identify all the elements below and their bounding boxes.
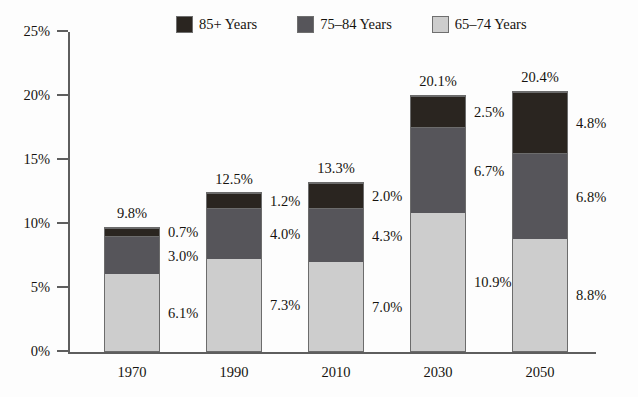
y-axis-tick: 20% [57,94,68,96]
bar-total-label: 20.1% [419,74,456,89]
legend-item-label: 65–74 Years [455,17,527,32]
segment-value-label: 4.8% [576,116,606,131]
bar-segment[interactable]: 4.0% [207,208,261,259]
y-axis-tick: 0% [57,350,68,352]
bar-segment[interactable]: 2.0% [309,183,363,208]
segment-value-label: 7.0% [372,299,402,314]
x-axis-tick-label: 1970 [118,365,147,380]
bar-segment[interactable]: 6.7% [411,127,465,212]
bar-segment[interactable]: 7.0% [309,262,363,351]
y-axis-tick-label: 25% [23,24,50,39]
bar-segment[interactable]: 2.5% [411,96,465,128]
bar-segment[interactable]: 3.0% [105,236,159,274]
segment-value-label: 6.1% [168,305,198,320]
segment-value-label: 0.7% [168,225,198,240]
legend-item-label: 85+ Years [199,17,257,32]
y-axis-tick: 10% [57,222,68,224]
x-axis-tick-label: 1990 [220,365,249,380]
bar-total-label: 13.3% [317,161,354,176]
y-axis-tick: 25% [57,30,68,32]
legend-item[interactable]: 65–74 Years [432,16,527,33]
x-axis-tick-label: 2050 [526,365,555,380]
bar-total-label: 12.5% [215,172,252,187]
segment-value-label: 8.8% [576,288,606,303]
legend-item-label: 75–84 Years [320,17,392,32]
stacked-bar[interactable]: 7.3%4.0%1.2% [206,192,262,352]
bar-group[interactable]: 8.8%6.8%4.8%20.4%2050 [512,32,568,352]
segment-value-label: 7.3% [270,298,300,313]
bar-segment[interactable]: 1.2% [207,193,261,208]
y-axis-tick-label: 0% [31,344,50,359]
bar-segment[interactable]: 7.3% [207,259,261,351]
legend-item[interactable]: 85+ Years [176,16,257,33]
x-axis-tick-label: 2030 [424,365,453,380]
bar-total-label: 9.8% [117,206,147,221]
bar-segment[interactable]: 6.8% [513,153,567,239]
segment-value-label: 4.0% [270,227,300,242]
legend-swatch-icon [297,16,314,33]
bar-segment[interactable]: 8.8% [513,239,567,351]
bar-segment[interactable]: 4.8% [513,92,567,153]
segment-value-label: 1.2% [270,194,300,209]
stacked-bar[interactable]: 7.0%4.3%2.0% [308,182,364,352]
y-axis-tick: 5% [57,286,68,288]
y-axis-tick: 15% [57,158,68,160]
legend-swatch-icon [432,16,449,33]
bar-group[interactable]: 7.3%4.0%1.2%12.5%1990 [206,32,262,352]
legend-swatch-icon [176,16,193,33]
x-axis-line [68,352,596,354]
x-axis-tick-label: 2010 [322,365,351,380]
stacked-bar[interactable]: 10.9%6.7%2.5% [410,95,466,352]
stacked-bar-chart: 85+ Years75–84 Years65–74 Years 0%5%10%1… [0,0,638,397]
bar-segment[interactable]: 6.1% [105,274,159,351]
y-axis-tick-label: 5% [31,280,50,295]
bar-total-label: 20.4% [521,70,558,85]
y-axis-tick-label: 15% [23,152,50,167]
segment-value-label: 6.7% [474,163,504,178]
y-axis-tick-label: 20% [23,88,50,103]
legend-item[interactable]: 75–84 Years [297,16,392,33]
stacked-bar[interactable]: 6.1%3.0%0.7% [104,227,160,352]
bar-group[interactable]: 7.0%4.3%2.0%13.3%2010 [308,32,364,352]
y-axis-line [68,32,70,352]
segment-value-label: 10.9% [474,275,511,290]
y-axis-tick-label: 10% [23,216,50,231]
segment-value-label: 6.8% [576,189,606,204]
bar-segment[interactable]: 0.7% [105,228,159,237]
segment-value-label: 4.3% [372,229,402,244]
segment-value-label: 3.0% [168,249,198,264]
bar-segment[interactable]: 4.3% [309,208,363,262]
segment-value-label: 2.5% [474,105,504,120]
bar-group[interactable]: 10.9%6.7%2.5%20.1%2030 [410,32,466,352]
chart-legend: 85+ Years75–84 Years65–74 Years [176,16,527,33]
bar-segment[interactable]: 10.9% [411,213,465,351]
segment-value-label: 2.0% [372,189,402,204]
plot-area: 0%5%10%15%20%25% 6.1%3.0%0.7%9.8%19707.3… [68,32,596,352]
bar-group[interactable]: 6.1%3.0%0.7%9.8%1970 [104,32,160,352]
stacked-bar[interactable]: 8.8%6.8%4.8% [512,91,568,352]
